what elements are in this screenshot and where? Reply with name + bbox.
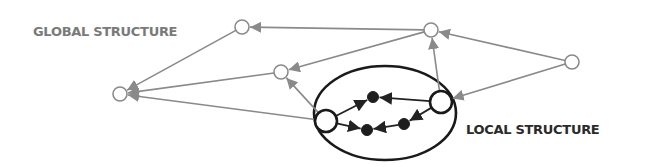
edge-l-big-right-to-l-dot-top (379, 97, 430, 101)
edge-g-top-right-to-g-middle (289, 32, 425, 70)
node-l-big-left (315, 110, 337, 132)
node-g-right (565, 55, 579, 69)
edge-l-big-left-to-g-left (128, 95, 315, 120)
node-l-dot-bottom-right (399, 119, 410, 130)
node-l-big-right (430, 91, 452, 113)
local-structure-label: LOCAL STRUCTURE (466, 122, 599, 137)
node-g-left (113, 87, 127, 101)
edge-g-top-right-to-g-top-left (250, 27, 424, 30)
node-g-middle (274, 65, 288, 79)
node-l-dot-top (368, 92, 379, 103)
edge-l-big-left-to-l-dot-bottom-left (337, 123, 361, 128)
edge-l-big-left-to-l-dot-top (336, 100, 367, 116)
node-l-dot-bottom-left (362, 125, 373, 136)
edge-g-middle-to-g-left (128, 73, 274, 93)
edge-g-right-to-l-big-right (452, 64, 565, 98)
node-g-top-right (424, 23, 438, 37)
node-g-top-left (235, 20, 249, 34)
global-structure-label: GLOBAL STRUCTURE (33, 24, 177, 39)
edge-l-big-right-to-l-dot-bottom-right (410, 108, 432, 121)
edge-l-big-right-to-g-top-right (432, 38, 439, 91)
edge-l-dot-bottom-right-to-l-dot-bottom-left (373, 125, 398, 129)
edge-g-right-to-g-top-right (439, 32, 565, 61)
edge-l-big-left-to-g-middle (286, 78, 318, 113)
